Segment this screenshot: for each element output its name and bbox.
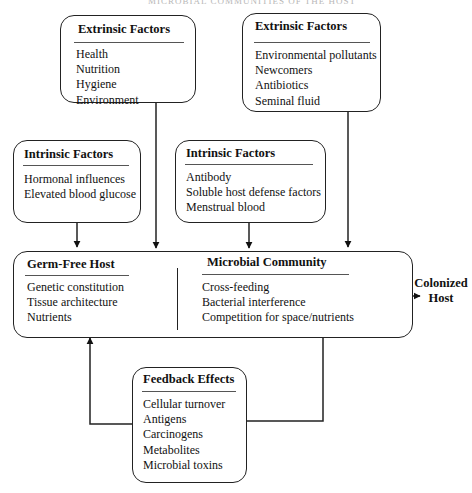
title-divider [202,274,349,275]
list-item: Soluble host defense factors [186,185,321,200]
list-item: Health [76,47,139,62]
list-item: Elevated blood glucose [24,187,136,202]
box-title: Feedback Effects [143,372,234,387]
list-item: Bacterial interference [202,295,354,310]
title-divider [23,165,129,166]
outcome-line-1: Colonized [408,276,472,291]
list-item: Seminal fluid [255,94,377,109]
section-divider [177,268,178,330]
list-item: Metabolites [143,443,225,458]
list-item: Microbial toxins [143,458,225,473]
feedback-effects-box: Feedback Effects Cellular turnover Antig… [132,367,247,483]
list-item: Cross-feeding [202,280,354,295]
section-title: Microbial Community [207,255,327,270]
list-item: Hormonal influences [24,172,136,187]
list-item: Competition for space/nutrients [202,310,354,325]
list-item: Carcinogens [143,427,225,442]
colonized-host-label: Colonized Host [408,276,472,306]
box-title: Extrinsic Factors [78,22,170,37]
intrinsic-factors-box-right: Intrinsic Factors Antibody Soluble host … [175,140,326,223]
section-title: Germ-Free Host [27,257,115,272]
intrinsic-factors-box-left: Intrinsic Factors Hormonal influences El… [13,140,141,223]
feedback-line-from-community [246,336,323,421]
list-item: Nutrition [76,62,139,77]
title-divider [254,42,370,43]
host-community-box: Germ-Free Host Genetic constitution Tiss… [13,251,413,338]
title-divider [74,42,184,43]
box-title: Intrinsic Factors [186,146,275,161]
list-item: Nutrients [27,310,124,325]
list-item: Menstrual blood [186,200,321,215]
factor-list: Health Nutrition Hygiene Environment [76,47,139,108]
list-item: Hygiene [76,77,139,92]
list-item: Tissue architecture [27,295,124,310]
title-divider [185,164,313,165]
list-item: Antigens [143,412,225,427]
community-interaction-list: Cross-feeding Bacterial interference Com… [202,280,354,326]
list-item: Antibody [186,170,321,185]
feedback-list: Cellular turnover Antigens Carcinogens M… [143,397,225,473]
title-divider [142,391,236,392]
list-item: Cellular turnover [143,397,225,412]
factor-list: Environmental pollutants Newcomers Antib… [255,48,377,109]
list-item: Environmental pollutants [255,48,377,63]
list-item: Antibiotics [255,78,377,93]
list-item: Newcomers [255,63,377,78]
outcome-line-2: Host [408,291,472,306]
factor-list: Hormonal influences Elevated blood gluco… [24,172,136,202]
title-divider [25,275,129,276]
extrinsic-factors-box-right: Extrinsic Factors Environmental pollutan… [242,13,381,112]
factor-list: Antibody Soluble host defense factors Me… [186,170,321,216]
box-title: Intrinsic Factors [24,147,113,162]
list-item: Environment [76,93,139,108]
arrow-feedback-to-host [90,338,132,424]
host-attribute-list: Genetic constitution Tissue architecture… [27,280,124,326]
list-item: Genetic constitution [27,280,124,295]
box-title: Extrinsic Factors [255,19,347,34]
extrinsic-factors-box-left: Extrinsic Factors Health Nutrition Hygie… [60,15,196,103]
